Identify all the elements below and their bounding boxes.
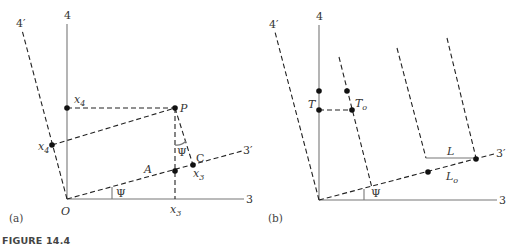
axis-3-label: 3 xyxy=(246,193,253,206)
psi-label-b: Ψ xyxy=(371,187,381,200)
origin-label: O xyxy=(61,205,70,218)
axis-4-prime-line xyxy=(22,30,67,199)
axis-3-prime-label: 3′ xyxy=(496,147,506,160)
x3-prime-label: x3 xyxy=(193,167,204,182)
x4-prime-label: x4 xyxy=(38,140,49,155)
x4-label: x4 xyxy=(74,93,85,108)
x3-label: x3 xyxy=(170,203,181,218)
axis-4-prime-line xyxy=(275,32,319,200)
parallel-line-2 xyxy=(397,48,426,158)
parallel-line-1 xyxy=(339,57,372,188)
psi-label-a1: Ψ xyxy=(116,187,126,200)
figure-14-4-diagram: 4 4′ 3 3′ O x4 P x4 A C x3 x3 Ψ Ψ (a) xyxy=(0,0,519,247)
axis-3-label: 3 xyxy=(499,194,506,207)
axis-4-prime-label: 4′ xyxy=(16,17,26,30)
point-Lo xyxy=(425,169,431,175)
x4p-to-P-line xyxy=(52,108,175,145)
axis-3-prime-line xyxy=(319,154,494,200)
psi-angle-arc xyxy=(175,141,186,145)
figure-caption: FIGURE 14.4 xyxy=(2,235,70,246)
axis-3-prime-line xyxy=(67,151,242,199)
panel-b-label: (b) xyxy=(268,212,283,224)
A-label: A xyxy=(143,163,152,176)
C-label: C xyxy=(196,152,204,165)
parallel-line-3 xyxy=(447,38,476,158)
point-A xyxy=(172,168,178,174)
axis-4-label: 4 xyxy=(316,10,323,23)
P-label: P xyxy=(179,102,188,115)
point-L xyxy=(473,156,479,162)
L-label: L xyxy=(446,145,454,158)
To-label: To xyxy=(355,97,367,112)
panel-a-label: (a) xyxy=(9,212,23,224)
point-T xyxy=(316,107,322,113)
axis-4-prime-label: 4′ xyxy=(269,18,279,31)
point-To xyxy=(349,107,355,113)
point-P xyxy=(172,105,178,111)
axis-3-prime-label: 3′ xyxy=(243,144,253,157)
point-x4 xyxy=(64,105,70,111)
panel-b: 4 4′ 3 3′ T To L Lo Ψ (b) xyxy=(268,10,506,224)
panel-a: 4 4′ 3 3′ O x4 P x4 A C x3 x3 Ψ Ψ (a) xyxy=(9,9,253,224)
axis-4-label: 4 xyxy=(64,9,71,22)
T-label: T xyxy=(308,98,317,111)
point-To-upper xyxy=(344,88,350,94)
point-x4-prime xyxy=(49,142,55,148)
Lo-label: Lo xyxy=(445,170,458,185)
psi-label-a2: Ψ xyxy=(177,146,187,159)
point-T-upper xyxy=(316,88,322,94)
